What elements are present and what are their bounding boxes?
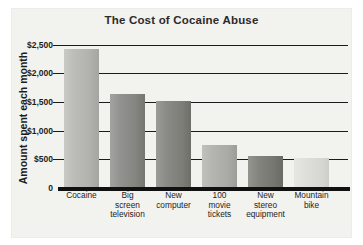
bar-fill-new-stereo-equipment	[248, 156, 283, 188]
y-axis-title: Amount spent each month	[17, 43, 29, 193]
xlabel-new-computer-line-2: computer	[150, 201, 197, 211]
x-axis-tick-labels: Cocaine Big screen television New comput…	[60, 191, 348, 235]
xlabel-100-movie-tickets-line-3: tickets	[196, 210, 243, 220]
xlabel-new-stereo-equipment-line-3: equipment	[242, 210, 289, 220]
xlabel-big-screen-television-line-3: television	[104, 210, 151, 220]
bar-cocaine[interactable]	[64, 49, 99, 189]
bar-big-screen-television[interactable]	[110, 94, 145, 188]
bar-series	[60, 45, 348, 189]
bar-100-movie-tickets[interactable]	[202, 145, 237, 188]
chart-title: The Cost of Cocaine Abuse	[0, 14, 363, 26]
xlabel-cocaine-line-1: Cocaine	[58, 191, 105, 201]
xlabel-big-screen-television: Big screen television	[104, 191, 151, 220]
bar-fill-100-movie-tickets	[202, 145, 237, 188]
bar-fill-big-screen-television	[110, 94, 145, 188]
chart-page: The Cost of Cocaine Abuse Amount spent e…	[0, 0, 363, 245]
xlabel-cocaine: Cocaine	[58, 191, 105, 201]
xlabel-mountain-bike-line-2: bike	[288, 201, 335, 211]
xlabel-mountain-bike: Mountain bike	[288, 191, 335, 210]
bar-new-computer[interactable]	[156, 101, 191, 189]
xlabel-new-computer: New computer	[150, 191, 197, 210]
xlabel-100-movie-tickets: 100 movie tickets	[196, 191, 243, 220]
xlabel-new-stereo-equipment: New stereo equipment	[242, 191, 289, 220]
bar-fill-mountain-bike	[294, 158, 329, 188]
bar-new-stereo-equipment[interactable]	[248, 156, 283, 188]
bar-fill-cocaine	[64, 49, 99, 189]
bar-mountain-bike[interactable]	[294, 158, 329, 188]
bar-fill-new-computer	[156, 101, 191, 189]
